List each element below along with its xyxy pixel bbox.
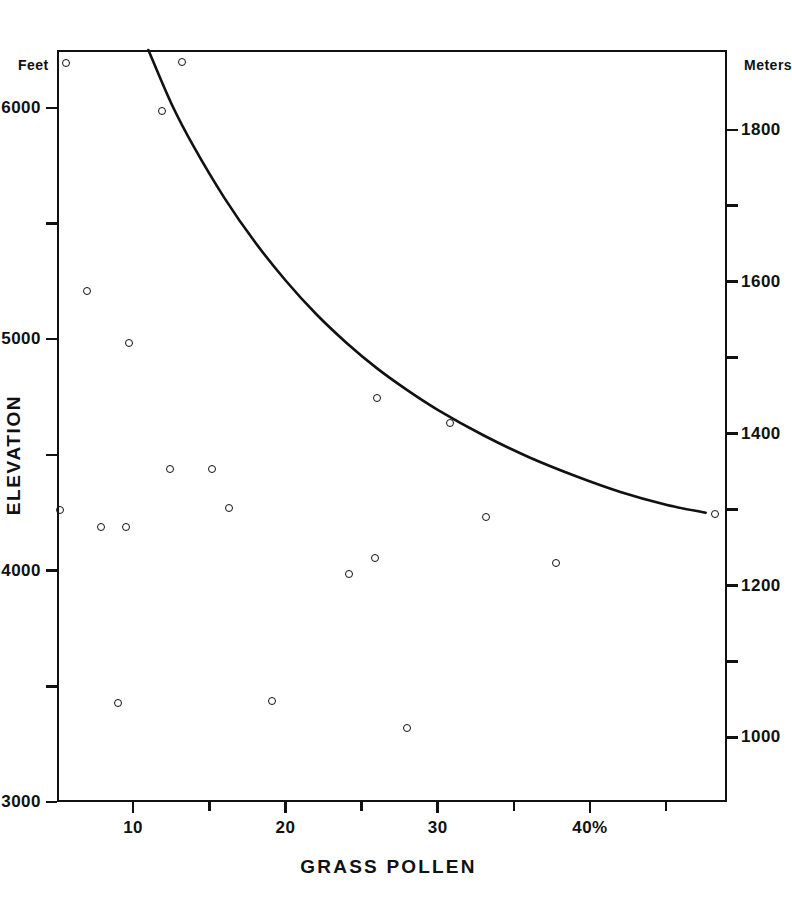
- x-axis-tick: [284, 802, 287, 813]
- x-axis-tick-label: 40%: [572, 818, 608, 838]
- y-axis-right-tick: [727, 432, 738, 435]
- y-axis-right-tick-label: 1400: [741, 424, 781, 444]
- x-axis-minor-tick: [665, 802, 668, 811]
- y-axis-right-minor-tick: [727, 356, 738, 359]
- y-axis-tick-label: 5000: [0, 329, 41, 349]
- y-axis-tick: [46, 569, 57, 572]
- y-axis-tick-label: 3000: [0, 792, 41, 812]
- y-axis-right-tick: [727, 280, 738, 283]
- plot-area: [57, 50, 727, 802]
- x-axis-tick-label: 10: [123, 818, 143, 838]
- x-axis-minor-tick: [513, 802, 516, 811]
- y-axis-right-tick: [727, 129, 738, 132]
- y-axis-right-minor-tick: [727, 204, 738, 207]
- y-axis-minor-tick: [46, 454, 57, 457]
- y-axis-right-minor-tick: [727, 508, 738, 511]
- y-axis-right-minor-tick: [727, 660, 738, 663]
- y-axis-right-tick-label: 1200: [741, 576, 781, 596]
- x-axis-tick: [436, 802, 439, 813]
- y-axis-right-tick-label: 1800: [741, 120, 781, 140]
- y-axis-right-tick-label: 1600: [741, 272, 781, 292]
- y-axis-minor-tick: [46, 222, 57, 225]
- y-axis-tick: [46, 107, 57, 110]
- y-axis-tick-label: 4000: [0, 561, 41, 581]
- x-axis-title: GRASS POLLEN: [0, 856, 777, 878]
- x-axis-tick-label: 30: [428, 818, 448, 838]
- x-axis-tick: [589, 802, 592, 813]
- x-axis-minor-tick: [360, 802, 363, 811]
- right-axis-unit-label: Meters: [744, 57, 792, 73]
- x-axis-tick: [132, 802, 135, 813]
- y-axis-title: ELEVATION: [3, 395, 25, 515]
- y-axis-right-tick: [727, 736, 738, 739]
- y-axis-right-tick-label: 1000: [741, 727, 781, 747]
- x-axis-tick-label: 20: [275, 818, 295, 838]
- y-axis-tick-label: 6000: [0, 98, 41, 118]
- x-axis-minor-tick: [208, 802, 211, 811]
- y-axis-tick: [46, 338, 57, 341]
- left-axis-unit-label: Feet: [18, 57, 49, 73]
- y-axis-tick: [46, 801, 57, 804]
- y-axis-minor-tick: [46, 685, 57, 688]
- y-axis-right-tick: [727, 584, 738, 587]
